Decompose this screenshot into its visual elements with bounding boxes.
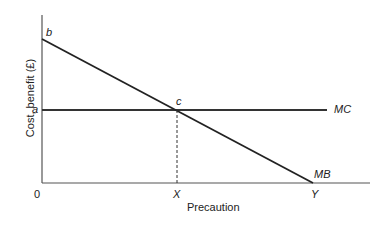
label-b: b bbox=[46, 27, 52, 38]
label-origin: 0 bbox=[34, 189, 40, 200]
label-c: c bbox=[176, 96, 182, 107]
label-a: a bbox=[32, 104, 38, 115]
x-axis-label: Precaution bbox=[187, 202, 240, 213]
label-y: Y bbox=[311, 189, 318, 200]
label-x: X bbox=[173, 189, 180, 200]
label-mc: MC bbox=[334, 104, 351, 115]
y-axis-label: Cost, benefit (£) bbox=[24, 38, 36, 158]
label-mb: MB bbox=[314, 169, 331, 180]
